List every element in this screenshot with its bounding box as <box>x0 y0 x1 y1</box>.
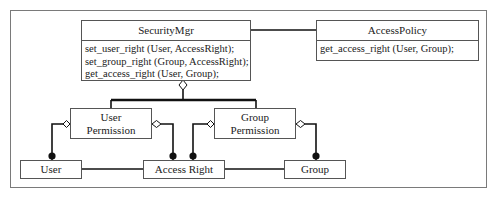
aggregation-diamond-securitymgr <box>179 80 187 90</box>
class-name: Group <box>285 163 345 176</box>
class-name: SecurityMgr <box>82 21 250 41</box>
multiplicity-dot-accessright-2 <box>189 152 196 159</box>
aggregation-diamond-groupperm-right <box>296 121 305 128</box>
class-name: User <box>21 163 81 176</box>
multiplicity-dot-accessright-1 <box>169 152 176 159</box>
class-name-line1: User <box>71 111 151 124</box>
class-name-line2: Permission <box>215 124 295 137</box>
aggregation-diamond-userperm-left <box>63 121 70 128</box>
class-group-permission: Group Permission <box>214 108 296 139</box>
class-access-right: Access Right <box>143 160 225 179</box>
class-operations: set_user_right (User, AccessRight); set_… <box>82 41 250 81</box>
operation: set_group_right (Group, AccessRight); <box>85 56 247 69</box>
uml-diagram: SecurityMgr set_user_right (User, Access… <box>0 0 496 197</box>
class-user: User <box>20 160 82 179</box>
aggregation-diamond-userperm-right <box>152 121 161 128</box>
class-name: AccessPolicy <box>317 21 478 41</box>
class-operations: get_access_right (User, Group); <box>317 41 478 56</box>
class-name: Access Right <box>144 163 224 176</box>
multiplicity-dot-group <box>312 152 319 159</box>
class-name-line2: Permission <box>71 124 151 137</box>
class-name-line1: Group <box>215 111 295 124</box>
operation: set_user_right (User, AccessRight); <box>85 43 247 56</box>
class-user-permission: User Permission <box>70 108 152 139</box>
multiplicity-dot-user <box>48 152 55 159</box>
class-accesspolicy: AccessPolicy get_access_right (User, Gro… <box>316 20 479 61</box>
class-group: Group <box>284 160 346 179</box>
class-securitymgr: SecurityMgr set_user_right (User, Access… <box>81 20 251 81</box>
aggregation-diamond-groupperm-left <box>207 121 214 128</box>
operation: get_access_right (User, Group); <box>85 68 247 81</box>
operation: get_access_right (User, Group); <box>320 43 475 56</box>
